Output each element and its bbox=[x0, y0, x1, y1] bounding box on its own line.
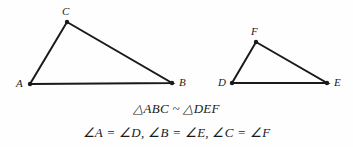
vertex-label-c: C bbox=[62, 6, 69, 17]
vertex-label-b: B bbox=[179, 77, 186, 88]
vertex-dot-c bbox=[65, 20, 69, 24]
triangle-abc-group bbox=[28, 20, 174, 86]
vertex-label-a: A bbox=[16, 78, 23, 89]
similarity-statement: △ABC ~ △DEF bbox=[0, 102, 353, 115]
vertex-label-d: D bbox=[218, 77, 226, 88]
vertex-dot-d bbox=[230, 81, 234, 85]
angle-congruence-statement: ∠A = ∠D, ∠B = ∠E, ∠C = ∠F bbox=[0, 126, 353, 139]
vertex-dot-e bbox=[325, 81, 329, 85]
vertex-dot-f bbox=[254, 40, 258, 44]
triangle-def-group bbox=[230, 40, 329, 85]
triangle-abc-outline bbox=[30, 22, 172, 84]
geometry-figure: A B C D E F △ABC ~ △DEF ∠A = ∠D, ∠B = ∠E… bbox=[0, 0, 353, 147]
vertex-dot-b bbox=[170, 81, 174, 85]
vertex-dot-a bbox=[28, 82, 32, 86]
vertex-label-f: F bbox=[251, 26, 258, 37]
vertex-label-e: E bbox=[334, 77, 341, 88]
triangle-def-outline bbox=[232, 42, 327, 83]
